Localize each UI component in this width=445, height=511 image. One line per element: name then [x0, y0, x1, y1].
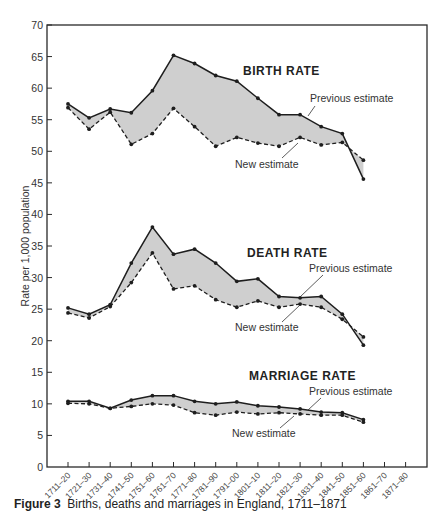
y-tick-label: 50 [31, 145, 43, 157]
data-point [319, 305, 323, 309]
y-tick-label: 15 [31, 366, 43, 378]
data-point [235, 279, 239, 283]
data-point [129, 111, 133, 115]
data-point [193, 284, 197, 288]
data-point [319, 125, 323, 129]
data-point [151, 394, 155, 398]
data-point [151, 132, 155, 136]
data-point [277, 144, 281, 148]
data-point [129, 398, 133, 402]
death-new-label: New estimate [235, 321, 299, 333]
data-point [256, 141, 260, 145]
data-point [256, 299, 260, 303]
data-point [87, 127, 91, 131]
data-point [235, 79, 239, 83]
data-point [277, 411, 281, 415]
data-point [256, 412, 260, 416]
data-point [129, 142, 133, 146]
data-point [277, 305, 281, 309]
data-point [108, 305, 112, 309]
data-point [214, 413, 218, 417]
data-point [193, 125, 197, 129]
data-point [193, 399, 197, 403]
death-previous-leader [300, 275, 323, 297]
data-point [108, 406, 112, 410]
birth-previous-leader [308, 106, 315, 116]
figure-caption-text: Births, deaths and marriages in England,… [67, 497, 346, 511]
y-tick-label: 0 [37, 461, 43, 473]
data-point [66, 102, 70, 106]
birth-rate-title: BIRTH RATE [243, 64, 320, 78]
death-previous-label: Previous estimate [309, 262, 393, 274]
data-point [235, 135, 239, 139]
data-point [66, 401, 70, 405]
data-point [319, 413, 323, 417]
data-point [172, 106, 176, 110]
data-point [172, 53, 176, 57]
data-point [340, 141, 344, 145]
data-point [129, 404, 133, 408]
death-rate-group [66, 225, 365, 347]
birth-rate-group [66, 53, 365, 181]
data-point [340, 132, 344, 136]
data-point [151, 251, 155, 255]
data-point [172, 403, 176, 407]
data-point [172, 394, 176, 398]
y-tick-label: 60 [31, 82, 43, 94]
data-point [66, 311, 70, 315]
data-point [66, 106, 70, 110]
data-point [340, 317, 344, 321]
data-point [277, 295, 281, 299]
data-point [298, 407, 302, 411]
y-tick-label: 25 [31, 303, 43, 315]
data-point [298, 135, 302, 139]
data-point [214, 298, 218, 302]
figure-number: Figure 3 [14, 497, 61, 511]
data-point [214, 74, 218, 78]
data-point [151, 89, 155, 93]
data-point [66, 306, 70, 310]
data-point [129, 281, 133, 285]
y-axis: 0510152025303540455055606570 [31, 19, 52, 473]
data-point [108, 110, 112, 114]
y-tick-label: 20 [31, 335, 43, 347]
death-rate-title: DEATH RATE [247, 246, 328, 260]
data-point [256, 277, 260, 281]
data-point [193, 62, 197, 66]
data-point [172, 287, 176, 291]
data-point [319, 295, 323, 299]
data-point [362, 335, 366, 339]
data-point [129, 261, 133, 265]
data-point [235, 305, 239, 309]
data-point [214, 261, 218, 265]
data-point [193, 247, 197, 251]
data-point [277, 113, 281, 117]
x-axis: 1711–201721–301731–401741–501751–601761–… [42, 462, 410, 501]
data-point [87, 402, 91, 406]
y-tick-label: 65 [31, 51, 43, 63]
data-point [298, 412, 302, 416]
data-point [256, 96, 260, 100]
data-point [214, 402, 218, 406]
marriage-previous-label: Previous estimate [309, 385, 393, 397]
data-point [172, 252, 176, 256]
data-point [362, 343, 366, 347]
birth-previous-label: Previous estimate [310, 92, 394, 104]
death-new-leader [282, 305, 300, 322]
data-point [362, 177, 366, 181]
data-point [298, 113, 302, 117]
marriage-new-label: New estimate [232, 427, 296, 439]
y-tick-label: 55 [31, 114, 43, 126]
data-point [319, 143, 323, 147]
birth-new-label: New estimate [235, 158, 299, 170]
y-axis-label: Rate per 1,000 population [19, 185, 31, 306]
data-point [193, 411, 197, 415]
data-point [235, 400, 239, 404]
data-point [151, 402, 155, 406]
y-tick-label: 40 [31, 208, 43, 220]
data-point [235, 410, 239, 414]
y-tick-label: 10 [31, 398, 43, 410]
marriage-rate-title: MARRIAGE RATE [249, 369, 356, 383]
data-point [151, 225, 155, 229]
data-point [87, 116, 91, 120]
